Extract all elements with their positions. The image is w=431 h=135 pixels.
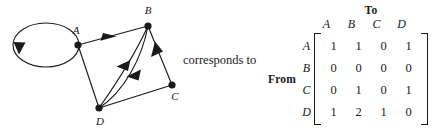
matrix-cell: 0	[396, 101, 421, 123]
arrowhead-a-to-b	[101, 33, 117, 41]
column-header-a: A	[314, 17, 339, 32]
digraph-adjacency-matrix-figure: A B C D corresponds to To A B C D From A…	[0, 0, 431, 135]
matrix-cell: 1	[346, 35, 371, 57]
to-label-row: To	[262, 4, 431, 16]
matrix-grid: 1 1 0 1 0 0 0 0 0 1 0 1	[321, 35, 421, 123]
node-c	[168, 81, 175, 88]
matrix-row: 1 2 1 0	[321, 101, 421, 123]
edge-a-to-d	[78, 45, 99, 108]
row-header-a: A	[299, 35, 314, 57]
node-a	[74, 41, 81, 48]
adjacency-matrix: To A B C D From A B C D 1	[262, 4, 428, 125]
node-b	[144, 22, 151, 29]
matrix-cell: 0	[321, 57, 346, 79]
matrix-cell: 0	[371, 79, 396, 101]
matrix-cell: 0	[371, 57, 396, 79]
matrix-cell: 1	[321, 101, 346, 123]
matrix-cell: 0	[321, 79, 346, 101]
matrix-bracket-container: 1 1 0 1 0 0 0 0 0 1 0 1	[314, 33, 428, 125]
matrix-cell: 1	[371, 101, 396, 123]
matrix-cell: 1	[396, 79, 421, 101]
matrix-row: 0 1 0 1	[321, 79, 421, 101]
matrix-cell: 1	[346, 79, 371, 101]
corresponds-to-text: corresponds to	[183, 53, 256, 68]
matrix-cell: 2	[346, 101, 371, 123]
column-header-c: C	[364, 17, 389, 32]
row-header-d: D	[299, 101, 314, 123]
matrix-left-bracket	[314, 33, 321, 125]
from-label: From	[262, 73, 299, 85]
graph-svg: A B C D	[0, 0, 200, 135]
matrix-cell: 1	[321, 35, 346, 57]
arrowhead-d-to-b-1	[117, 60, 131, 71]
matrix-cell: 0	[371, 35, 396, 57]
matrix-cell: 0	[396, 57, 421, 79]
node-label-d: D	[95, 115, 104, 127]
column-header-b: B	[339, 17, 364, 32]
matrix-row: 1 1 0 1	[321, 35, 421, 57]
arrowhead-d-to-b-2	[127, 70, 142, 81]
to-label: To	[365, 4, 378, 16]
node-label-b: B	[145, 4, 152, 16]
matrix-column-headers: A B C D	[262, 17, 414, 32]
node-label-a: A	[72, 24, 80, 36]
matrix-cell: 1	[396, 35, 421, 57]
matrix-right-bracket	[421, 33, 428, 125]
matrix-row: 0 0 0 0	[321, 57, 421, 79]
row-header-b: B	[299, 57, 314, 79]
matrix-body: From A B C D 1 1 0 1 0	[262, 33, 428, 125]
matrix-row-headers: A B C D	[299, 35, 314, 123]
row-header-c: C	[299, 79, 314, 101]
edge-d-to-c	[99, 85, 172, 108]
column-header-d: D	[389, 17, 414, 32]
matrix-cell: 0	[346, 57, 371, 79]
node-label-c: C	[171, 90, 179, 102]
node-d	[95, 104, 102, 111]
arrowhead-c-to-b	[151, 42, 163, 58]
directed-graph-diagram: A B C D	[0, 0, 200, 135]
